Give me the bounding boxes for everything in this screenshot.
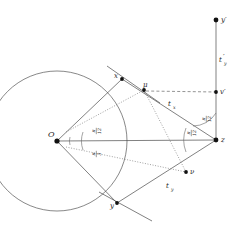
point-x (120, 77, 124, 81)
label-point-O: O (48, 130, 55, 139)
label-typrime-subscript: y (223, 61, 227, 67)
angle-O-lower-denominator: 3 (97, 152, 102, 155)
tangent-segment-x-z (122, 79, 216, 140)
point-y (115, 201, 119, 205)
angle-z-upper-numerator: π (201, 117, 206, 122)
label-segment-ty: t y (166, 182, 174, 193)
dotted-chord-to-mu (66, 90, 144, 132)
point-z (214, 138, 219, 143)
label-ty-subscript: y (170, 187, 174, 193)
label-typrime-base: t (219, 56, 222, 64)
angle-O-upper-denominator: 12 (97, 128, 102, 134)
label-point-mu: μ (143, 81, 148, 89)
label-point-x: x (114, 72, 118, 80)
label-segment-ty-prime: t ′ y (219, 53, 227, 67)
axis-O-to-z (57, 140, 216, 141)
label-typrime-prime: ′ (223, 53, 225, 61)
label-tx-subscript: x (173, 105, 176, 110)
label-point-vprime: v′ (220, 88, 226, 96)
angle-z-upper-denominator: 12 (207, 116, 212, 122)
point-vprime (214, 90, 218, 94)
angle-O-upper-numerator: π (91, 129, 96, 134)
label-ty-base: t (166, 182, 169, 190)
dashed-line-mu-to-vprime (146, 91, 216, 92)
label-point-z: z (220, 136, 225, 144)
label-tx-base: t (168, 100, 171, 108)
angle-label-z-upper: π 12 (201, 116, 212, 122)
angle-label-O-upper: π 12 (91, 128, 102, 134)
geometry-figure: O x y μ ν z v′ y′ t x t y t ′ y π 12 π (0, 0, 251, 231)
point-O (54, 138, 59, 143)
angle-z-lower-denominator: 12 (192, 130, 197, 136)
point-nu (184, 170, 188, 174)
radius-to-y (57, 141, 117, 203)
label-point-y: y (109, 202, 115, 210)
angle-label-O-lower: π 3 (91, 151, 102, 157)
label-segment-tx: t x (168, 100, 176, 110)
angle-label-z-lower: π 12 (186, 130, 197, 136)
label-point-nu: ν (190, 168, 195, 176)
geometry-canvas: O x y μ ν z v′ y′ t x t y t ′ y π 12 π (0, 0, 251, 231)
label-point-yprime: y′ (220, 16, 227, 24)
tangent-segment-y-z (117, 140, 216, 203)
angle-z-lower-numerator: π (186, 131, 191, 136)
point-yprime (214, 18, 219, 23)
tangent-line-at-y (99, 192, 152, 221)
dotted-chord-mu-nu (144, 90, 186, 172)
